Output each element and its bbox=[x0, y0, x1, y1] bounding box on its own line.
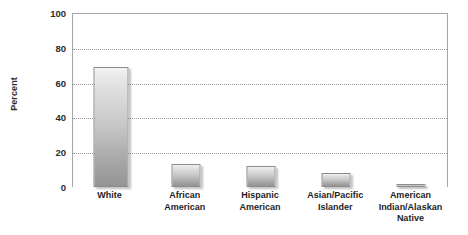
bar-slot bbox=[148, 14, 223, 187]
bar[interactable] bbox=[397, 184, 426, 187]
bar-slot bbox=[73, 14, 148, 187]
x-axis-label: Asian/Pacific Islander bbox=[292, 190, 379, 213]
x-axis-labels: WhiteAfrican AmericanHispanic AmericanAs… bbox=[72, 190, 448, 235]
bar-slot bbox=[299, 14, 374, 187]
y-tick-label: 100 bbox=[24, 8, 70, 19]
bar[interactable] bbox=[246, 166, 275, 187]
y-tick-label: 40 bbox=[24, 112, 70, 123]
x-axis-label: African American bbox=[141, 190, 228, 213]
bar[interactable] bbox=[171, 164, 200, 187]
x-axis-label: American Indian/Alaskan Native bbox=[367, 190, 454, 225]
y-tick-label: 20 bbox=[24, 147, 70, 158]
bar[interactable] bbox=[322, 173, 351, 187]
y-tick-label: 80 bbox=[24, 42, 70, 53]
bar-slot bbox=[374, 14, 449, 187]
bar-slot bbox=[223, 14, 298, 187]
x-axis-label: White bbox=[66, 190, 153, 202]
x-axis-label: Hispanic American bbox=[216, 190, 303, 213]
bars-layer bbox=[73, 14, 447, 187]
plot-area bbox=[72, 13, 448, 187]
y-tick-label: 0 bbox=[24, 182, 70, 193]
plot-inner bbox=[73, 14, 447, 187]
y-axis-title-text: Percent bbox=[9, 77, 19, 111]
y-axis-title: Percent bbox=[6, 0, 22, 187]
bar-chart: Percent 100806040200 WhiteAfrican Americ… bbox=[0, 0, 468, 235]
y-axis-ticks: 100806040200 bbox=[24, 0, 70, 235]
bar[interactable] bbox=[93, 67, 128, 187]
y-tick-label: 60 bbox=[24, 77, 70, 88]
